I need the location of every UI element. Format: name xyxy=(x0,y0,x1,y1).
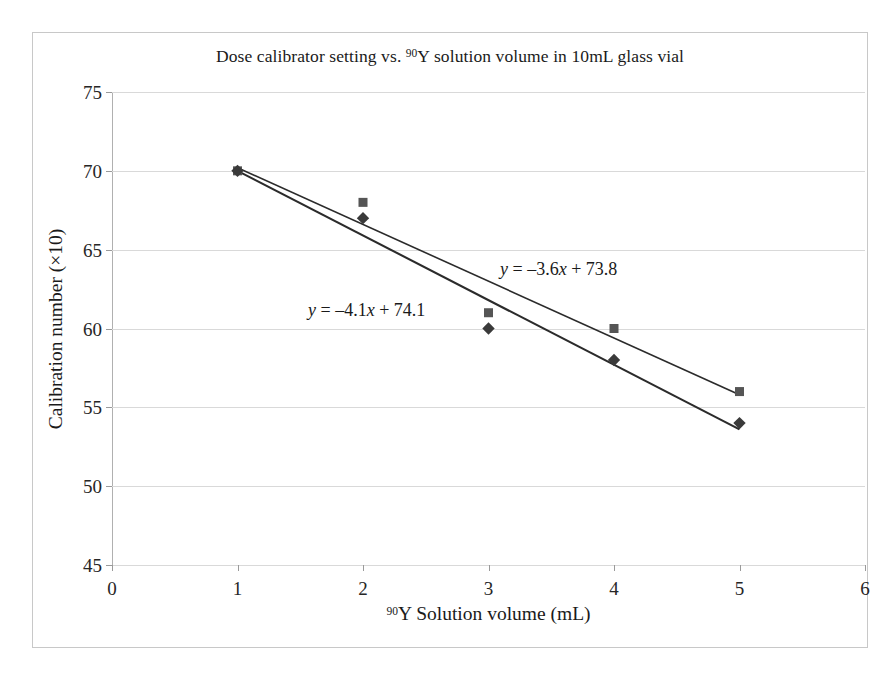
y-tick-label-75: 75 xyxy=(83,83,102,102)
equation-variable-x-upper: x xyxy=(559,259,567,279)
y-tick-label-50: 50 xyxy=(83,477,102,496)
trendline-group xyxy=(238,168,740,430)
data-point-square xyxy=(484,308,493,317)
equation-tail-upper: + 73.8 xyxy=(567,259,618,279)
y-axis-title: Calibration number (×10) xyxy=(44,92,68,565)
x-axis-title-text: Y Solution volume (mL) xyxy=(398,603,591,624)
marker-group xyxy=(231,165,745,430)
trendline-square xyxy=(238,168,740,395)
y-tick-label-45: 45 xyxy=(83,556,102,575)
chart-title: Dose calibrator setting vs. 90Y solution… xyxy=(32,42,868,67)
x-tick-mark-3 xyxy=(489,565,490,571)
chart-title-text-before: Dose calibrator setting vs. xyxy=(216,46,406,66)
x-tick-label-4: 4 xyxy=(609,579,619,598)
x-tick-mark-4 xyxy=(614,565,615,571)
data-point-square xyxy=(359,198,368,207)
x-tick-mark-6 xyxy=(865,565,866,571)
y-tick-label-70: 70 xyxy=(83,162,102,181)
plot-area: 75 70 65 60 55 50 45 0 1 2 3 4 5 6 y = –… xyxy=(112,92,865,565)
x-tick-label-2: 2 xyxy=(358,579,368,598)
y-tick-label-55: 55 xyxy=(83,398,102,417)
data-point-square xyxy=(735,387,744,396)
chart-title-superscript: 90 xyxy=(406,47,418,59)
x-tick-mark-0 xyxy=(112,565,113,571)
data-point-diamond xyxy=(608,354,620,366)
chart-figure: Dose calibrator setting vs. 90Y solution… xyxy=(0,0,893,678)
x-tick-label-5: 5 xyxy=(735,579,745,598)
equation-body-upper: = –3.6 xyxy=(508,259,559,279)
data-point-diamond xyxy=(482,322,494,334)
equation-tail-lower: + 74.1 xyxy=(375,300,426,320)
y-axis-title-label: Calibration number (×10) xyxy=(46,228,66,429)
x-tick-label-0: 0 xyxy=(107,579,117,598)
chart-title-text-after: Y solution volume in 10mL glass vial xyxy=(417,46,684,66)
data-series-layer xyxy=(112,92,865,565)
y-tick-label-65: 65 xyxy=(83,241,102,260)
trendline-equation-diamonds: y = –4.1x + 74.1 xyxy=(308,300,425,320)
x-tick-label-3: 3 xyxy=(484,579,494,598)
x-tick-mark-1 xyxy=(238,565,239,571)
x-tick-mark-5 xyxy=(740,565,741,571)
x-tick-label-6: 6 xyxy=(860,579,870,598)
x-axis-title: 90Y Solution volume (mL) xyxy=(112,600,865,625)
x-tick-mark-2 xyxy=(363,565,364,571)
x-tick-label-1: 1 xyxy=(233,579,243,598)
x-axis-title-superscript: 90 xyxy=(386,605,398,617)
data-point-square xyxy=(610,324,619,333)
equation-variable-y-upper: y xyxy=(500,259,508,279)
equation-variable-y-lower: y xyxy=(308,300,316,320)
equation-variable-x-lower: x xyxy=(367,300,375,320)
equation-body-lower: = –4.1 xyxy=(316,300,367,320)
trendline-equation-squares: y = –3.6x + 73.8 xyxy=(500,259,617,279)
y-tick-label-60: 60 xyxy=(83,320,102,339)
